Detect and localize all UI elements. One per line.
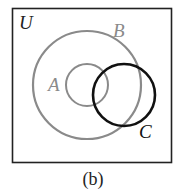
venn-diagram: U B A C (b) (0, 0, 187, 193)
set-c-circle (93, 64, 155, 126)
set-a-label: A (46, 74, 60, 95)
set-a-circle (66, 64, 108, 106)
set-b-label: B (113, 20, 125, 41)
universe-label: U (19, 12, 34, 33)
figure-caption: (b) (83, 169, 104, 190)
set-c-label: C (139, 121, 152, 142)
